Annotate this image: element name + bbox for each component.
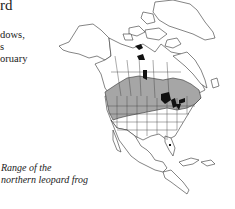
body-text-line: oruary [0,53,27,65]
arctic-islands [141,12,155,24]
caption-line: Range of the [1,162,88,174]
map-caption: Range of the northern leopard frog [1,162,88,186]
central-america [163,170,189,194]
alaska [59,24,111,60]
body-text-line: s [0,41,4,53]
heading-fragment: rd [0,0,13,14]
caption-line: northern leopard frog [1,174,88,186]
body-text-line: dows, [0,29,25,41]
